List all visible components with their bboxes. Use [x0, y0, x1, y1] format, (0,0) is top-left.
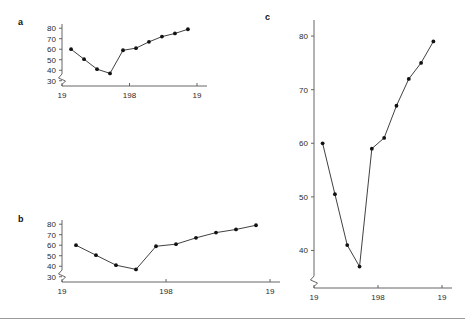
x-tick-label-c-2: 19 [438, 293, 447, 302]
data-point-a-0 [69, 47, 73, 51]
data-point-a-1 [82, 57, 86, 61]
y-tick-label-a-5: 80 [47, 24, 56, 33]
data-point-c-7 [407, 77, 411, 81]
series-line-c [323, 41, 434, 266]
data-point-c-5 [382, 136, 386, 140]
data-point-b-4 [154, 244, 158, 248]
plot-area-a: 3040506070801919819 [40, 10, 200, 110]
data-point-b-2 [114, 263, 118, 267]
y-tick-label-b-3: 60 [47, 241, 56, 250]
data-point-c-3 [358, 265, 362, 269]
y-tick-label-b-1: 40 [47, 262, 56, 271]
data-point-b-6 [194, 236, 198, 240]
data-point-c-6 [395, 104, 399, 108]
y-tick-label-a-0: 30 [47, 77, 56, 86]
series-line-b [76, 225, 256, 269]
panel-letter-c: c [265, 13, 270, 22]
data-point-c-1 [333, 192, 337, 196]
data-point-c-9 [431, 40, 435, 44]
panel-letter-b: b [18, 215, 24, 224]
y-tick-label-b-4: 70 [47, 231, 56, 240]
x-tick-label-a-1: 198 [123, 91, 137, 100]
x-tick-label-b-1: 198 [159, 287, 173, 296]
y-tick-label-a-1: 40 [47, 66, 56, 75]
data-point-a-3 [108, 71, 112, 75]
y-tick-label-a-4: 70 [47, 35, 56, 44]
data-point-c-2 [345, 243, 349, 247]
data-point-b-1 [94, 253, 98, 257]
y-tick-label-a-2: 50 [47, 56, 56, 65]
data-point-b-3 [134, 267, 138, 271]
x-tick-label-a-0: 19 [58, 91, 67, 100]
panel-letter-a: a [18, 18, 23, 27]
data-point-a-8 [173, 32, 177, 36]
y-tick-label-c-0: 40 [299, 246, 308, 255]
footer-divider [0, 318, 465, 319]
plot-area-b: 3040506070801919819 [40, 208, 272, 308]
figure-container: 3040506070801919819304050607080191981940… [0, 0, 465, 330]
data-point-c-0 [321, 141, 325, 145]
x-tick-label-b-2: 19 [266, 287, 275, 296]
data-point-b-8 [234, 228, 238, 232]
panel-a: 3040506070801919819 [40, 10, 200, 110]
plot-area-c: 40506070801919819 [288, 8, 460, 310]
panel-b: 3040506070801919819 [40, 208, 272, 308]
data-point-b-7 [214, 231, 218, 235]
data-point-b-9 [254, 223, 258, 227]
data-point-a-9 [186, 27, 190, 31]
data-point-b-5 [174, 242, 178, 246]
y-tick-label-c-4: 80 [299, 32, 308, 41]
data-point-a-4 [121, 48, 125, 52]
x-tick-label-a-2: 19 [193, 91, 202, 100]
series-line-a [71, 29, 188, 73]
y-tick-label-b-0: 30 [47, 273, 56, 282]
data-point-a-7 [160, 35, 164, 39]
y-tick-label-c-1: 50 [299, 193, 308, 202]
data-point-c-4 [370, 147, 374, 151]
x-tick-label-c-1: 198 [371, 293, 385, 302]
y-tick-label-c-2: 60 [299, 139, 308, 148]
panel-c: 40506070801919819 [288, 8, 460, 310]
y-tick-label-c-3: 70 [299, 86, 308, 95]
data-point-c-8 [419, 61, 423, 65]
data-point-a-2 [95, 67, 99, 71]
y-tick-label-a-3: 60 [47, 45, 56, 54]
data-point-a-6 [147, 40, 151, 44]
x-tick-label-b-0: 19 [58, 287, 67, 296]
data-point-b-0 [74, 243, 78, 247]
x-tick-label-c-0: 19 [310, 293, 319, 302]
y-tick-label-b-5: 80 [47, 220, 56, 229]
data-point-a-5 [134, 46, 138, 50]
y-tick-label-b-2: 50 [47, 252, 56, 261]
